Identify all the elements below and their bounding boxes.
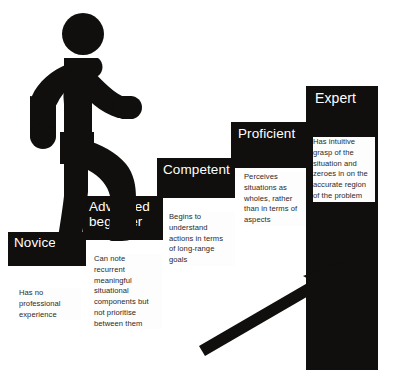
diagram-canvas: Expert Proficient Competent Advanced beg… (0, 0, 396, 383)
upward-progress-arrow-icon (0, 0, 396, 383)
